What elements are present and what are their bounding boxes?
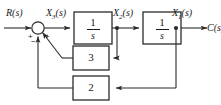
integrator-2-numerator: 1 (143, 17, 181, 29)
block-label-gain-2: 2 (73, 82, 109, 93)
sign-feedback-minus: − (31, 38, 36, 46)
label-x2: X2(s) (113, 8, 133, 21)
integrator-2-denominator: s (143, 30, 181, 41)
integrator-1-numerator: 1 (74, 17, 112, 29)
label-input-rs: R(s) (6, 8, 23, 18)
block-label-integrator-2: 1 s (143, 17, 181, 41)
label-output-cs: C(s) (207, 23, 221, 33)
integrator-1-denominator: s (74, 30, 112, 41)
block-diagram: R(s) X3(s) X2(s) X1(s) C(s) + − + 1 s 1 … (0, 0, 221, 105)
summing-junction-circle (32, 22, 44, 34)
sign-feedback-inner-plus: + (45, 33, 50, 41)
block-label-gain-3: 3 (73, 52, 109, 63)
label-x3: X3(s) (46, 8, 66, 21)
block-label-integrator-1: 1 s (74, 17, 112, 41)
takeoff-node-x2 (115, 26, 119, 30)
